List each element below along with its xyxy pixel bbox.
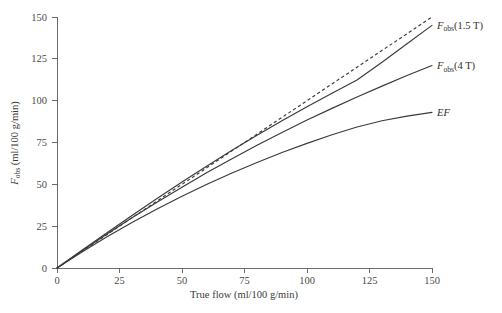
- y-axis-title-text: Fobs (ml/100 g/min): [9, 101, 22, 186]
- y-tick-label: 0: [42, 263, 47, 274]
- curve-f-obs-1-5-t-: [57, 25, 432, 268]
- data-curves: [57, 17, 432, 268]
- x-tick-label: 25: [114, 275, 125, 286]
- series-label-ef: EF: [436, 107, 450, 118]
- y-axis-ticks: 0255075100125150: [31, 12, 57, 274]
- x-tick-label: 75: [239, 275, 250, 286]
- y-tick-label: 75: [37, 137, 48, 148]
- curve-ef: [57, 112, 432, 268]
- x-tick-label: 50: [177, 275, 188, 286]
- series-suffix: (4 T): [454, 60, 476, 72]
- y-tick-label: 100: [31, 95, 47, 106]
- series-label-fobs-1: Fobs(4 T): [436, 60, 476, 73]
- chart-figure: 0255075100125150 0255075100125150 Fobs (…: [0, 0, 502, 313]
- curve-f-obs-4-t-: [57, 66, 432, 268]
- y-axis-units: (ml/100 g/min): [9, 101, 21, 168]
- x-tick-label: 100: [299, 275, 315, 286]
- y-tick-label: 125: [31, 53, 47, 64]
- y-tick-label: 150: [31, 12, 47, 23]
- x-tick-label: 150: [424, 275, 440, 286]
- y-tick-label: 25: [37, 221, 48, 232]
- series-label-fobs-0: Fobs(1.5 T): [436, 20, 483, 33]
- series-subscript: obs: [443, 65, 454, 74]
- series-subscript: obs: [443, 24, 454, 33]
- series-labels: Fobs(1.5 T)Fobs(4 T)EF: [436, 20, 483, 118]
- x-axis-title-text: True flow (ml/100 g/min): [190, 289, 298, 301]
- flow-comparison-chart: 0255075100125150 0255075100125150 Fobs (…: [0, 0, 502, 313]
- y-axis-subscript: obs: [13, 168, 22, 179]
- x-tick-label: 125: [362, 275, 378, 286]
- x-axis-ticks: 0255075100125150: [54, 268, 440, 286]
- y-axis-title: Fobs (ml/100 g/min): [9, 101, 22, 186]
- x-tick-label: 0: [54, 275, 59, 286]
- y-tick-label: 50: [37, 179, 48, 190]
- series-symbol: EF: [436, 107, 450, 118]
- series-suffix: (1.5 T): [454, 20, 483, 32]
